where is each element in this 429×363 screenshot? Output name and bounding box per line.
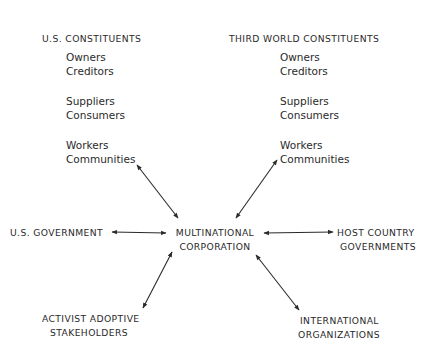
connection-arrows xyxy=(0,0,429,363)
arrow-third-world-constituents xyxy=(236,160,277,218)
arrow-host-country xyxy=(264,232,333,233)
arrow-international xyxy=(256,255,299,310)
arrow-activist xyxy=(143,252,172,308)
arrow-us-government xyxy=(112,232,166,233)
arrow-us-constituents xyxy=(137,165,178,218)
